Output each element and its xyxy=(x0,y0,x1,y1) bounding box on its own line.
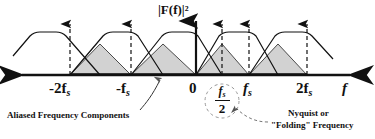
aliased-triangle xyxy=(131,44,196,75)
tick-label-minus-2fs: -2fs xyxy=(49,80,70,98)
aliased-triangle xyxy=(70,44,131,75)
page-title: |F(f)|² xyxy=(158,2,189,18)
annotation-nyquist-line2: "Folding" Frequency xyxy=(271,120,354,130)
tick-label-zero: 0 xyxy=(189,80,197,97)
tick-label-minus-fs: -fs xyxy=(116,80,130,98)
tick-label-fs: fs xyxy=(243,80,252,98)
axis-label-f: f xyxy=(342,80,347,97)
annotation-nyquist-line1: Nyquist or xyxy=(288,108,329,118)
aliased-triangle xyxy=(249,44,307,75)
aliased-triangle-group xyxy=(70,44,307,75)
aliased-leader-line xyxy=(140,80,160,110)
nyquist-leader-line xyxy=(236,108,268,122)
tick-label-2fs: 2fs xyxy=(296,80,312,98)
annotation-aliased-frequency-components: Aliased Frequency Components xyxy=(7,110,129,120)
nyquist-frequency-fraction: fs 2 xyxy=(207,85,237,115)
aliasing-spectrum-figure: |F(f)|² -2fs -fs 0 fs 2fs f fs 2 Aliased… xyxy=(0,0,375,139)
